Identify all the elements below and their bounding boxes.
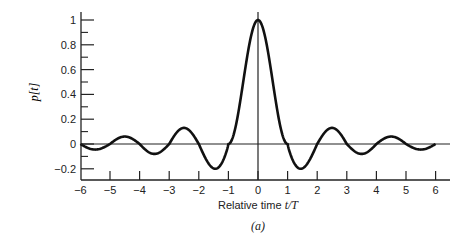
x-tick-label: 6	[433, 184, 439, 196]
x-tick-label: 0	[255, 184, 261, 196]
figure-caption: (a)	[251, 219, 265, 233]
y-axis-title: p[t]	[27, 82, 41, 102]
y-tick-label: 0.2	[61, 113, 76, 125]
x-tick-label: 2	[314, 184, 320, 196]
x-tick-label: 1	[285, 184, 291, 196]
y-tick-label: 1	[70, 14, 76, 26]
y-tick-label: −0.2	[54, 163, 76, 175]
x-tick-label: 4	[373, 184, 379, 196]
pulse-chart: −6−5−4−3−2−10123456 −0.200.20.40.60.81 R…	[0, 0, 472, 245]
x-tick-label: −4	[133, 184, 146, 196]
x-tick-label: −1	[222, 184, 235, 196]
x-tick-label: −2	[193, 184, 206, 196]
y-tick-label: 0.6	[61, 64, 76, 76]
y-axis-ticks: −0.200.20.40.60.81	[54, 14, 94, 175]
x-axis-title: Relative time t/T	[218, 198, 299, 212]
x-tick-label: 5	[403, 184, 409, 196]
x-tick-label: −5	[104, 184, 117, 196]
x-tick-label: −6	[74, 184, 87, 196]
y-tick-label: 0.8	[61, 39, 76, 51]
y-tick-label: 0.4	[61, 88, 76, 100]
x-tick-label: −3	[163, 184, 176, 196]
y-tick-label: 0	[70, 138, 76, 150]
x-axis-ticks: −6−5−4−3−2−10123456	[74, 171, 439, 196]
x-tick-label: 3	[344, 184, 350, 196]
